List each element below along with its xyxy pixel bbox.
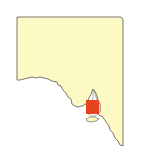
kangaroo-island [86,117,99,122]
map-svg [0,0,143,153]
state-outline [17,17,123,146]
highlight-region [86,100,99,114]
